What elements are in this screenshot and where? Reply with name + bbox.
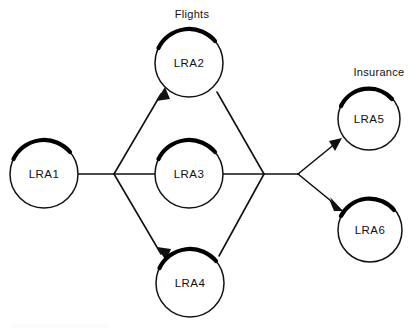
edge-junction-to-lra2 (114, 94, 161, 174)
node-lra4[interactable]: LRA4 (156, 249, 224, 317)
edge-lra2-to-junction (217, 92, 264, 174)
node-lra1[interactable]: LRA1 (10, 140, 78, 208)
node-lra6[interactable]: LRA6 (338, 198, 402, 262)
group-label-flights: Flights (175, 8, 210, 20)
arrowhead-into-lra5 (329, 138, 342, 151)
scan-artifact (12, 324, 108, 328)
edge-junction-to-lra5 (298, 143, 336, 174)
edge-junction-to-lra4 (114, 174, 161, 254)
node-lra3[interactable]: LRA3 (155, 140, 223, 208)
node-lra2[interactable]: LRA2 (155, 29, 223, 97)
edge-lra4-to-junction (219, 174, 264, 256)
group-label-insurance: Insurance (353, 66, 404, 78)
node-lra6-label: LRA6 (355, 224, 385, 236)
node-lra5-label: LRA5 (354, 113, 384, 125)
flow-diagram-svg: LRA1 LRA2 LRA3 LRA4 LRA5 (0, 0, 417, 332)
node-lra2-label: LRA2 (174, 57, 204, 69)
node-lra4-label: LRA4 (175, 277, 206, 289)
node-lra1-label: LRA1 (29, 168, 59, 180)
node-lra5[interactable]: LRA5 (338, 88, 400, 150)
node-lra3-label: LRA3 (174, 168, 204, 180)
diagram-canvas: LRA1 LRA2 LRA3 LRA4 LRA5 (0, 0, 417, 332)
